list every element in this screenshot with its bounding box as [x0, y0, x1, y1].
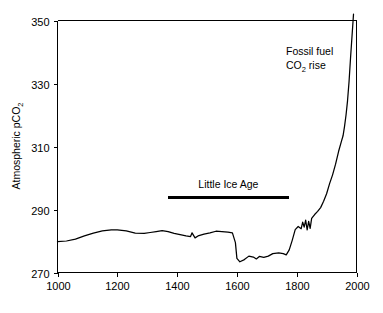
y-axis-ticks [54, 22, 58, 274]
chart-container: 270290310330350 100012001400160018002000… [0, 0, 383, 313]
fossil-fuel-annotation-line1: Fossil fuel [286, 45, 333, 57]
x-tick-label-1000: 1000 [46, 280, 70, 292]
x-tick-label-1800: 1800 [285, 280, 309, 292]
y-tick-label-270: 270 [31, 268, 49, 280]
x-axis-ticks [59, 273, 358, 277]
y-tick-label-350: 350 [31, 16, 49, 28]
little-ice-age-label: Little Ice Age [198, 178, 258, 190]
x-axis-tick-labels: 100012001400160018002000 [46, 280, 369, 292]
fossil-fuel-annotation-co: CO [286, 59, 302, 71]
fossil-fuel-annotation-tail: rise [306, 59, 326, 71]
x-tick-label-2000: 2000 [345, 280, 369, 292]
x-tick-label-1400: 1400 [165, 280, 189, 292]
y-tick-label-330: 330 [31, 79, 49, 91]
co2-line-chart: 270290310330350 100012001400160018002000… [0, 0, 383, 313]
little-ice-age-marker: Little Ice Age [168, 178, 290, 197]
y-axis-title-subscript: 2 [16, 102, 25, 106]
x-tick-label-1600: 1600 [225, 280, 249, 292]
y-axis-title: Atmospheric pCO2 [10, 102, 25, 189]
svg-text:Atmospheric pCO2: Atmospheric pCO2 [10, 102, 25, 189]
fossil-fuel-annotation: Fossil fuel CO2 rise [286, 45, 333, 74]
x-tick-label-1200: 1200 [105, 280, 129, 292]
y-tick-label-310: 310 [31, 142, 49, 154]
y-tick-label-290: 290 [31, 205, 49, 217]
y-axis-tick-labels: 270290310330350 [31, 16, 49, 280]
y-axis-title-main: Atmospheric pCO [10, 107, 22, 190]
fossil-fuel-annotation-line2: CO2 rise [286, 59, 326, 74]
